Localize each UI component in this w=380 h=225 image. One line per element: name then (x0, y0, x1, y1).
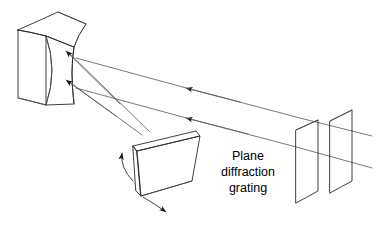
grating-label-line-1: Plane (232, 149, 264, 163)
mirror-left-side (18, 30, 46, 105)
incident-ray-upper-head (186, 88, 240, 102)
mirror-back-top-edge (58, 12, 86, 24)
grating-top-bevel (133, 131, 200, 151)
grating-left-bevel (133, 146, 141, 196)
grating-label-line-2: diffraction (221, 165, 275, 179)
grating-rotation-arrow-down (143, 197, 166, 212)
grating-label-line-3: grating (229, 181, 267, 195)
grating-label: Plane diffraction grating (221, 149, 275, 195)
mirror-concave-face (46, 36, 74, 105)
plane-diffraction-grating (133, 131, 200, 196)
slit-plate-front-top (296, 120, 318, 130)
ray-bundle-reflected (66, 51, 150, 135)
reflected-ray-upper-head (66, 51, 120, 104)
mirror-ray-lower (76, 88, 190, 119)
mirror-top-curve-edge (74, 24, 86, 47)
grating-front-face (137, 136, 200, 196)
slit-plate-rear-face (330, 110, 352, 193)
collimator-slit-plate-front (296, 120, 318, 203)
mirror-right-edge (72, 47, 74, 104)
concave-mirror (18, 12, 86, 105)
slit-plate-rear-top (330, 110, 352, 121)
mirror-bottom-edge (18, 98, 46, 105)
optical-diagram: Plane diffraction grating (0, 0, 380, 225)
mirror-ray-upper (76, 58, 190, 89)
mirror-curvature-line (46, 36, 52, 105)
grating-bottom-edge (141, 181, 192, 196)
grating-rotation-arrows (122, 153, 166, 212)
ray-bundle-incident (186, 88, 372, 168)
grating-rotation-arrow-up (122, 153, 133, 181)
diagram-canvas: Plane diffraction grating (0, 0, 380, 225)
slit-plate-front-face (296, 120, 318, 203)
collimator-slit-plate-rear (330, 110, 352, 193)
reflected-ray-upper (68, 52, 150, 132)
ray-bundle-mirror-arrival (76, 58, 190, 119)
